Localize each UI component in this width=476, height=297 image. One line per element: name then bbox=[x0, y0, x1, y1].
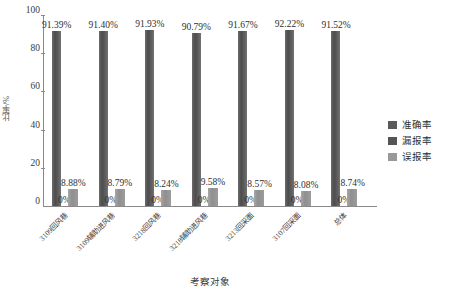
y-tick-label: 40 bbox=[16, 120, 40, 130]
bar-group: 91.40%0%8.79% bbox=[95, 15, 142, 206]
bar-value-label: 92.22% bbox=[275, 19, 304, 29]
x-tick-label-text: 3213回采面 bbox=[224, 211, 256, 243]
x-tick-label-text: 总体 bbox=[333, 211, 349, 227]
bar-准确率[interactable] bbox=[99, 31, 108, 206]
bar-group: 91.52%0%8.74% bbox=[327, 15, 374, 206]
legend-swatch-icon bbox=[388, 121, 397, 129]
y-tick-label: 100 bbox=[16, 5, 40, 15]
bar-value-label: 91.52% bbox=[321, 20, 350, 30]
bar-准确率[interactable] bbox=[285, 30, 294, 206]
y-axis-tick-labels: 020406080100 bbox=[16, 10, 40, 206]
bar-value-label: 91.93% bbox=[135, 19, 164, 29]
y-tick-label: 60 bbox=[16, 81, 40, 91]
x-tick-label-text: 3109回风巷 bbox=[38, 211, 70, 243]
bar-准确率[interactable] bbox=[331, 31, 340, 206]
y-tick-label: 80 bbox=[16, 43, 40, 53]
legend-swatch-icon bbox=[388, 153, 397, 161]
x-axis-title: 考察对象 bbox=[0, 274, 420, 288]
bar-group: 91.93%0%8.24% bbox=[141, 15, 188, 206]
x-tick-label-text: 3107回采面 bbox=[270, 211, 302, 243]
y-tick-label: 0 bbox=[16, 196, 40, 206]
x-tick-label-text: 3218辅助进风巷 bbox=[167, 211, 209, 253]
y-axis-title: 比率/% bbox=[2, 96, 16, 121]
bar-value-label: 91.40% bbox=[89, 20, 118, 30]
bar-value-label: 91.67% bbox=[228, 20, 257, 30]
legend: 准确率漏报率误报率 bbox=[388, 118, 474, 166]
bar-group: 92.22%0%8.08% bbox=[281, 15, 328, 206]
legend-item[interactable]: 漏报率 bbox=[388, 134, 474, 148]
legend-item[interactable]: 误报率 bbox=[388, 150, 474, 164]
legend-item[interactable]: 准确率 bbox=[388, 118, 474, 132]
bar-value-label: 8.79% bbox=[108, 178, 133, 188]
x-axis-tick-labels: 3109回风巷3109辅助进风巷3218回风巷3218辅助进风巷3213回采面3… bbox=[43, 207, 377, 277]
bar-value-label: 8.57% bbox=[247, 179, 272, 189]
legend-label: 误报率 bbox=[402, 152, 432, 162]
legend-swatch-icon bbox=[388, 137, 397, 145]
bar-value-label: 8.08% bbox=[294, 180, 319, 190]
bar-chart: 比率/% 020406080100 91.39%0%8.88%91.40%0%8… bbox=[0, 0, 476, 297]
legend-label: 准确率 bbox=[402, 120, 432, 130]
bar-group: 91.67%0%8.57% bbox=[234, 15, 281, 206]
bars-container: 91.39%0%8.88%91.40%0%8.79%91.93%0%8.24%9… bbox=[43, 15, 369, 206]
legend-label: 漏报率 bbox=[402, 136, 432, 146]
x-tick-label-text: 3109辅助进风巷 bbox=[74, 211, 116, 253]
bar-value-label: 91.39% bbox=[42, 20, 71, 30]
bar-value-label: 8.74% bbox=[340, 178, 365, 188]
bar-value-label: 90.79% bbox=[182, 22, 211, 32]
y-tick-label: 20 bbox=[16, 158, 40, 168]
bar-group: 90.79%0%9.58% bbox=[188, 15, 235, 206]
bar-value-label: 9.58% bbox=[201, 177, 226, 187]
bar-准确率[interactable] bbox=[52, 31, 61, 206]
bar-准确率[interactable] bbox=[192, 33, 201, 206]
bar-value-label: 8.88% bbox=[61, 178, 86, 188]
x-tick-label-text: 3218回风巷 bbox=[131, 211, 163, 243]
bar-value-label: 8.24% bbox=[154, 179, 179, 189]
bar-group: 91.39%0%8.88% bbox=[48, 15, 95, 206]
